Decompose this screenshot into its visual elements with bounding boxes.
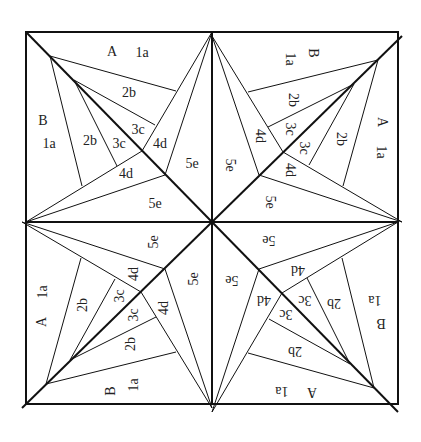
seam-line: [165, 269, 212, 408]
seam-line: [343, 60, 378, 186]
piece-label: 1a: [135, 45, 149, 60]
piece-label: 3c: [126, 308, 141, 321]
seam-line: [269, 319, 350, 364]
piece-label: 1a: [126, 378, 141, 392]
piece-label: 2b: [286, 93, 301, 107]
piece-label: A: [34, 316, 49, 327]
piece-label: 5e: [223, 158, 238, 171]
piece-label: A: [375, 117, 390, 128]
piece-label: 4d: [283, 163, 298, 177]
piece-label: 1a: [35, 285, 50, 299]
piece-label: 2b: [83, 133, 97, 148]
seam-line: [248, 353, 374, 388]
seam-line: [50, 56, 176, 91]
piece-label: 3c: [297, 141, 312, 154]
seam-line: [309, 84, 354, 165]
seam-line: [22, 222, 141, 292]
seam-line: [342, 258, 374, 388]
seam-line: [142, 32, 212, 151]
piece-label: 1a: [42, 136, 56, 151]
piece-label: 2b: [123, 337, 138, 351]
seam-line: [212, 269, 259, 412]
seam-line: [70, 317, 156, 360]
seam-line: [26, 151, 142, 222]
piece-label: 3c: [298, 293, 311, 308]
seam-line: [268, 84, 354, 127]
piece-label: 3c: [283, 122, 298, 135]
seam-line: [307, 278, 350, 364]
piece-label: 3c: [112, 136, 125, 151]
seam-line: [70, 279, 115, 360]
piece-label: 5e: [185, 156, 198, 171]
piece-label: 3c: [131, 122, 144, 137]
seam-line: [212, 36, 283, 152]
seam-line: [165, 32, 212, 175]
piece-label: 1a: [368, 293, 382, 308]
piece-label: 2b: [327, 296, 341, 311]
piece-label: 4d: [119, 166, 133, 181]
seam-line: [46, 258, 81, 384]
quilt-block-diagram: A1a2bB1a2b3c3c4d4d5e5eA1a2bB1a2b3c3c4d4d…: [0, 0, 421, 442]
piece-label: 2b: [288, 344, 302, 359]
piece-label: 5e: [186, 272, 201, 285]
piece-label: 2b: [122, 85, 136, 100]
seam-line: [74, 80, 117, 166]
piece-label: 3c: [279, 307, 292, 322]
piece-label: 4d: [153, 136, 167, 151]
piece-label: 2b: [334, 132, 349, 146]
quadrant-top-left: A1a2bB1a2b3c3c4d4d5e5e: [26, 32, 212, 222]
piece-label: 5e: [148, 196, 161, 211]
seam-line: [259, 222, 398, 269]
piece-label: 5e: [146, 235, 161, 248]
seam-line: [46, 352, 176, 384]
piece-label: 5e: [225, 273, 238, 288]
piece-label: 4d: [257, 293, 271, 308]
piece-label: B: [103, 386, 118, 395]
quadrant-bottom-left: A1a2bB1a2b3c3c4d4d5e5e: [22, 222, 212, 408]
seam-line: [248, 60, 378, 92]
seam-line: [212, 222, 398, 412]
quadrant-top-right: A1a2bB1a2b3c3c4d4d5e5e: [212, 36, 402, 222]
piece-label: 1a: [275, 384, 289, 399]
piece-label: 1a: [374, 145, 389, 159]
piece-label: 5e: [262, 233, 275, 248]
piece-label: 1a: [283, 52, 298, 66]
piece-label: 4d: [291, 263, 305, 278]
seam-line: [50, 56, 82, 186]
seam-line: [259, 175, 402, 222]
seam-line: [22, 222, 212, 408]
piece-label: 4d: [156, 301, 171, 315]
piece-label: A: [107, 44, 118, 59]
seam-line: [283, 152, 402, 222]
piece-label: 5e: [263, 195, 278, 208]
piece-label: B: [38, 113, 47, 128]
quadrant-bottom-right: A1a2bB1a2b3c3c4d4d5e5e: [212, 222, 398, 412]
seam-line: [74, 80, 155, 125]
piece-label: A: [306, 385, 317, 400]
seam-line: [212, 293, 282, 412]
piece-label: 4d: [126, 267, 141, 281]
piece-label: B: [306, 48, 321, 57]
piece-label: 3c: [112, 289, 127, 302]
seam-line: [282, 222, 398, 293]
seam-line: [26, 32, 212, 222]
seam-line: [141, 292, 212, 408]
seam-line: [22, 222, 165, 269]
seam-line: [212, 36, 402, 222]
seam-line: [26, 175, 165, 222]
piece-label: 2b: [75, 298, 90, 312]
piece-label: 4d: [253, 129, 268, 143]
piece-label: B: [376, 316, 385, 331]
seam-line: [212, 36, 259, 175]
